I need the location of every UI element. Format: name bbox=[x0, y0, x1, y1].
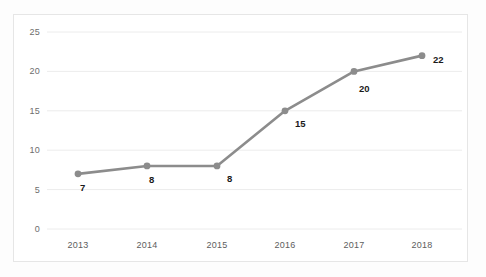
data-point-label: 22 bbox=[433, 54, 444, 65]
data-point-marker[interactable] bbox=[144, 163, 151, 170]
chart-figure: 0510152025 201320142015201620172018 7881… bbox=[0, 0, 486, 277]
y-axis-tick-label: 5 bbox=[18, 185, 40, 195]
data-point-marker[interactable] bbox=[419, 52, 426, 59]
y-axis-tick-label: 10 bbox=[18, 145, 40, 155]
x-axis-tick-label: 2018 bbox=[402, 240, 442, 250]
data-point-marker[interactable] bbox=[214, 163, 221, 170]
y-axis-tick-label: 20 bbox=[18, 66, 40, 76]
x-axis-tick-label: 2013 bbox=[58, 240, 98, 250]
x-axis-tick-label: 2016 bbox=[265, 240, 305, 250]
data-series-group bbox=[78, 56, 422, 174]
x-axis-tick-label: 2014 bbox=[127, 240, 167, 250]
y-axis-tick-label: 15 bbox=[18, 106, 40, 116]
y-axis-tick-label: 0 bbox=[18, 224, 40, 234]
x-axis-tick-label: 2017 bbox=[334, 240, 374, 250]
data-point-marker[interactable] bbox=[282, 107, 289, 114]
series-line bbox=[78, 56, 422, 174]
data-point-marker[interactable] bbox=[351, 68, 358, 75]
data-point-label: 7 bbox=[80, 182, 85, 193]
x-axis-tick-label: 2015 bbox=[197, 240, 237, 250]
data-point-label: 8 bbox=[227, 173, 232, 184]
y-axis-tick-label: 25 bbox=[18, 27, 40, 37]
line-chart-canvas bbox=[0, 0, 486, 277]
data-point-label: 20 bbox=[359, 83, 370, 94]
data-point-label: 8 bbox=[149, 174, 154, 185]
data-point-marker[interactable] bbox=[75, 170, 82, 177]
data-point-label: 15 bbox=[295, 118, 306, 129]
